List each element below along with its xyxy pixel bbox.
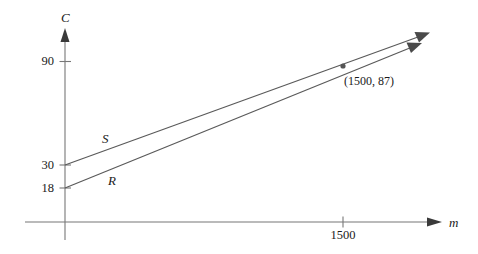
y-tick-label-18: 18 bbox=[26, 182, 54, 195]
y-axis bbox=[60, 28, 72, 240]
y-tick-label-90: 90 bbox=[26, 55, 54, 68]
series-label-s: S bbox=[102, 132, 109, 145]
chart-plot-area bbox=[0, 0, 478, 254]
x-axis-label: m bbox=[449, 216, 458, 229]
x-tick-label-1500: 1500 bbox=[318, 229, 368, 242]
y-tick-label-30: 30 bbox=[26, 159, 54, 172]
chart-figure: C m 90 30 18 1500 S R (1500, 87) bbox=[0, 0, 478, 254]
series-line-r bbox=[65, 43, 422, 189]
series-label-r: R bbox=[108, 174, 116, 187]
y-axis-label: C bbox=[61, 11, 70, 24]
series-line-s bbox=[65, 32, 430, 165]
x-axis bbox=[25, 217, 442, 228]
intersection-point-label: (1500, 87) bbox=[344, 75, 394, 87]
intersection-point-marker bbox=[340, 63, 345, 68]
